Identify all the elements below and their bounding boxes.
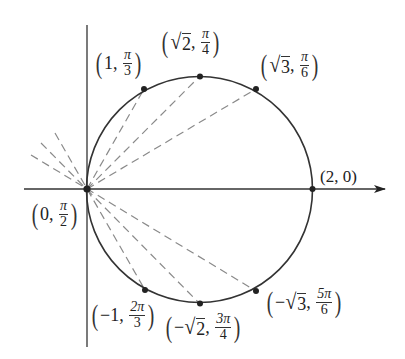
sqrt-symbol: √3 xyxy=(285,291,306,313)
r-value: 3 xyxy=(281,56,290,76)
theta-denominator: 4 xyxy=(202,43,209,58)
theta-numerator: π xyxy=(300,50,309,66)
comma: , xyxy=(113,54,118,72)
ray-pi-3 xyxy=(87,89,144,189)
theta-numerator: π xyxy=(201,27,210,43)
point-negsqrt2-3pi-4 xyxy=(197,301,203,307)
label-2-0: (2, 0) xyxy=(320,168,357,185)
point-sqrt3-pi-6 xyxy=(253,86,259,92)
theta-fraction: π3 xyxy=(123,48,132,78)
theta-fraction: 2π3 xyxy=(129,300,145,330)
comma: , xyxy=(49,205,54,223)
left-paren: ( xyxy=(92,300,99,330)
radical-icon: √ xyxy=(185,316,196,338)
comma: , xyxy=(205,318,210,336)
left-paren: ( xyxy=(267,287,274,317)
label-text: (2, 0) xyxy=(320,168,357,185)
points xyxy=(83,74,315,307)
theta-fraction: 5π6 xyxy=(316,287,332,317)
comma: , xyxy=(191,33,196,51)
point-1-pi-3 xyxy=(141,86,147,92)
right-paren: ) xyxy=(148,300,155,330)
label-negsqrt2-3pi-4: ( − √2, 3π4 ) xyxy=(164,312,242,342)
sqrt-symbol: √3 xyxy=(269,54,290,76)
theta-denominator: 2 xyxy=(60,215,67,230)
point-negsqrt3-5pi-6 xyxy=(253,288,259,294)
theta-fraction: π4 xyxy=(201,27,210,57)
right-paren: ) xyxy=(213,27,220,57)
point-sqrt2-pi-4 xyxy=(197,74,203,80)
theta-denominator: 6 xyxy=(301,66,308,81)
right-paren: ) xyxy=(234,312,241,342)
left-paren: ( xyxy=(166,312,173,342)
minus-sign: − xyxy=(174,318,184,336)
theta-denominator: 6 xyxy=(321,303,328,318)
theta-numerator: π xyxy=(123,48,132,64)
left-paren: ( xyxy=(96,48,103,78)
label-negsqrt3-5pi-6: ( − √3, 5π6 ) xyxy=(265,287,343,317)
label-1-pi-3: ( 1, π3 ) xyxy=(94,48,143,78)
dashed-rays xyxy=(31,76,256,304)
theta-denominator: 3 xyxy=(134,316,141,331)
radical-icon: √ xyxy=(270,54,281,76)
comma: , xyxy=(119,306,124,324)
sqrt-symbol: √2 xyxy=(184,316,205,338)
right-paren: ) xyxy=(312,50,319,80)
radical-icon: √ xyxy=(171,31,182,53)
label-neg1-2pi-3: ( −1, 2π3 ) xyxy=(90,300,156,330)
minus-sign: − xyxy=(275,293,285,311)
label-sqrt3-pi-6: ( √3, π6 ) xyxy=(259,50,320,80)
left-paren: ( xyxy=(162,27,169,57)
r-value: 0 xyxy=(40,205,49,223)
comma: , xyxy=(306,293,311,311)
theta-numerator: π xyxy=(59,199,68,215)
theta-fraction: π2 xyxy=(59,199,68,229)
theta-numerator: 2π xyxy=(129,300,145,316)
r-value: 2 xyxy=(182,33,191,53)
point-origin xyxy=(83,185,90,192)
left-paren: ( xyxy=(261,50,268,80)
radical-icon: √ xyxy=(286,291,297,313)
point-2-0 xyxy=(310,186,316,192)
r-value: 2 xyxy=(196,318,205,338)
right-paren: ) xyxy=(335,287,342,317)
point-neg1-2pi-3 xyxy=(142,287,148,293)
r-value: 1 xyxy=(104,54,113,72)
label-0-pi-2: ( 0, π2 ) xyxy=(30,199,79,229)
theta-denominator: 4 xyxy=(220,328,227,343)
comma: , xyxy=(290,56,295,74)
r-value: 1 xyxy=(110,306,119,324)
r-value: 3 xyxy=(297,293,306,313)
theta-fraction: π6 xyxy=(300,50,309,80)
sqrt-symbol: √2 xyxy=(170,31,191,53)
theta-fraction: 3π4 xyxy=(215,312,231,342)
theta-numerator: 3π xyxy=(215,312,231,328)
right-paren: ) xyxy=(71,199,78,229)
theta-denominator: 3 xyxy=(124,64,131,79)
theta-numerator: 5π xyxy=(316,287,332,303)
right-paren: ) xyxy=(135,48,142,78)
minus-sign: − xyxy=(100,306,110,324)
left-paren: ( xyxy=(32,199,39,229)
label-sqrt2-pi-4: ( √2, π4 ) xyxy=(160,27,221,57)
